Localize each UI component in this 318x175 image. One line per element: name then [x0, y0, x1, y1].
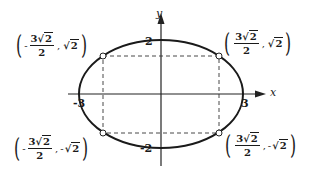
radicand: 2	[274, 37, 283, 49]
sqrt-icon: √	[63, 40, 70, 51]
radicand: 2	[71, 142, 80, 154]
left-paren: (	[16, 32, 22, 58]
radicand: 2	[279, 139, 288, 151]
sqrt-icon: √	[272, 140, 279, 151]
x-sign: -	[22, 143, 25, 154]
left-paren: (	[14, 135, 20, 161]
x-sign: -	[24, 40, 27, 51]
numerator-coef: 3	[31, 33, 38, 44]
point-bottom-right	[216, 130, 222, 136]
coord-label-bottom-right: ( 3√2 2 , - √2 )	[223, 132, 298, 158]
x-fraction: 3√2 2	[234, 31, 259, 56]
numerator-coef: 3	[29, 136, 36, 147]
radicand: 2	[70, 39, 79, 51]
y-sign: -	[268, 140, 271, 151]
left-paren: (	[224, 30, 230, 56]
tick-y-neg: -2	[140, 143, 152, 154]
coord-label-bottom-left: ( - 3√2 2 , - √2 )	[12, 135, 90, 161]
y-sign: -	[60, 143, 63, 154]
y-axis-label: y	[156, 8, 162, 19]
comma: ,	[57, 40, 60, 51]
sqrt-icon: √	[243, 133, 250, 144]
radicand: 2	[250, 132, 259, 144]
right-paren: )	[290, 132, 296, 158]
point-bottom-left	[100, 130, 106, 136]
coord-label-top-right: ( 3√2 2 , √2 )	[222, 30, 294, 56]
x-axis-arrow-icon	[255, 91, 266, 98]
sqrt-icon: √	[242, 31, 249, 42]
left-paren: (	[225, 132, 231, 158]
tick-y-pos: 2	[145, 36, 153, 47]
radicand: 2	[249, 30, 258, 42]
x-fraction: 3√2 2	[28, 136, 53, 161]
tick-x-neg: -3	[73, 98, 85, 109]
right-paren: )	[81, 32, 87, 58]
x-fraction: 3√2 2	[30, 33, 55, 58]
point-top-left	[100, 53, 106, 59]
coord-label-top-left: ( - 3√2 2 , √2 )	[14, 32, 89, 58]
denominator: 2	[36, 149, 43, 161]
comma: ,	[55, 143, 58, 154]
denominator: 2	[243, 44, 250, 56]
comma: ,	[262, 38, 265, 49]
radicand: 2	[42, 135, 51, 147]
comma: ,	[263, 140, 266, 151]
right-paren: )	[82, 135, 88, 161]
denominator: 2	[244, 146, 251, 158]
x-axis-label: x	[270, 87, 276, 98]
radicand: 2	[44, 32, 53, 44]
denominator: 2	[38, 46, 45, 58]
tick-x-pos: 3	[241, 98, 249, 109]
x-fraction: 3√2 2	[235, 133, 260, 158]
right-paren: )	[285, 30, 291, 56]
